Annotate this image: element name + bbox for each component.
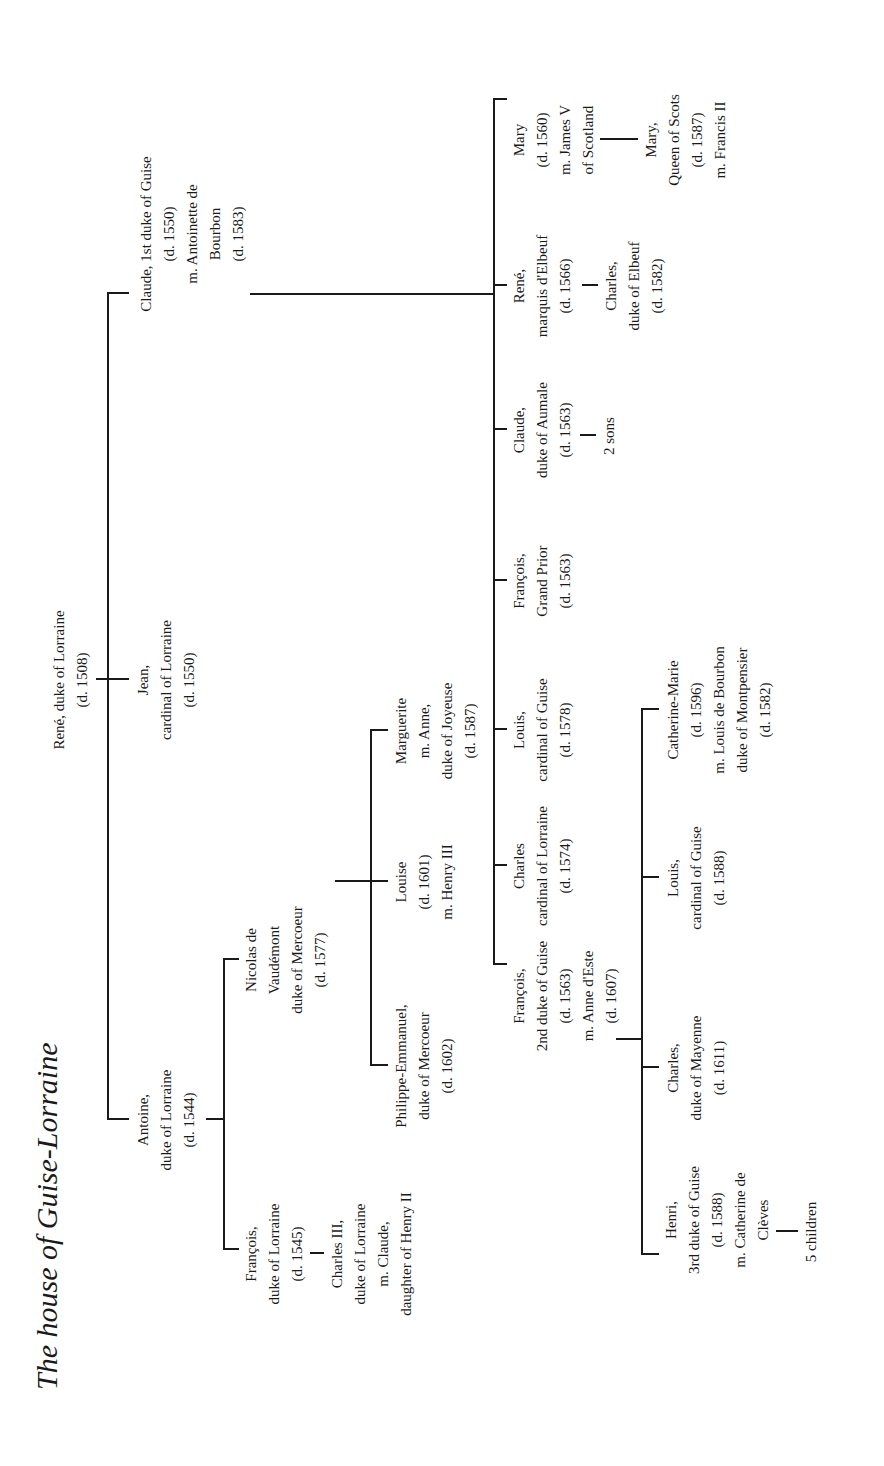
- node-text-line: Antoine,: [132, 1070, 155, 1171]
- node-text-line: m. Henry III: [436, 844, 459, 919]
- node-text-line: (d. 1588): [708, 826, 731, 929]
- connector-francois: [223, 1248, 239, 1250]
- node-text-line: m. Francis II: [709, 94, 732, 186]
- node-text-line: m. Anne d'Este: [577, 941, 600, 1051]
- connector-antoine: [107, 1118, 129, 1120]
- node-text-line: duke of Montpensier: [731, 646, 754, 774]
- node-text-line: Clèves: [752, 1166, 775, 1274]
- node-mary-queen-of-scots: Mary,Queen of Scots(d. 1587)m. Francis I…: [640, 94, 732, 186]
- connector-louise: [370, 880, 388, 882]
- node-text-line: Nicolas de: [240, 906, 263, 1013]
- connector-louis-card: [493, 728, 507, 730]
- node-jean: Jean,cardinal of Lorraine(d. 1550): [132, 620, 201, 740]
- node-text-line: (d. 1560): [531, 105, 554, 175]
- node-text-line: Charles: [508, 806, 531, 926]
- node-text-line: duke of Mercoeur: [286, 906, 309, 1013]
- connector-philippe: [370, 1064, 388, 1066]
- connector-claude: [107, 292, 129, 294]
- node-text-line: m. James V: [554, 105, 577, 175]
- node-text-line: Charles,: [600, 241, 623, 330]
- node-antoine: Antoine,duke of Lorraine(d. 1544): [132, 1070, 201, 1171]
- connector-jean: [107, 678, 129, 680]
- node-text-line: Charles,: [662, 1016, 685, 1121]
- node-text-line: cardinal of Lorraine: [531, 806, 554, 926]
- node-francois-duke-of-lorraine: François,duke of Lorraine(d. 1545): [240, 1204, 309, 1305]
- connector-claude-aumale: [493, 428, 507, 430]
- node-text-line: cardinal of Guise: [685, 826, 708, 929]
- node-text-line: François,: [508, 941, 531, 1051]
- node-charles-cardinal-of-lorraine: Charlescardinal of Lorraine(d. 1574): [508, 806, 577, 926]
- node-text-line: (d. 1607): [600, 941, 623, 1051]
- connector-henri: [641, 1253, 659, 1255]
- node-text-line: Louis,: [662, 826, 685, 929]
- node-text-line: duke of Elbeuf: [623, 241, 646, 330]
- node-text-line: (d. 1596): [685, 646, 708, 774]
- node-mary-of-guise: Mary(d. 1560)m. James Vof Scotland: [508, 105, 600, 175]
- node-text-line: of Scotland: [577, 105, 600, 175]
- node-text-line: (d. 1577): [309, 906, 332, 1013]
- node-text-line: Queen of Scots: [663, 94, 686, 186]
- node-henri-5-children: 5 children: [800, 1202, 823, 1262]
- connector-antoine-children-bar: [223, 960, 225, 1250]
- connector-francois2: [493, 963, 507, 965]
- node-text-line: (d. 1563): [554, 545, 577, 616]
- node-text-line: cardinal of Guise: [531, 678, 554, 781]
- node-text-line: Grand Prior: [531, 545, 554, 616]
- connector-mary: [493, 98, 507, 100]
- node-louis-cardinal-of-guise: Louis,cardinal of Guise(d. 1578): [508, 678, 577, 781]
- family-tree-diagram: The house of Guise-Lorraine René, duke o…: [0, 0, 884, 1466]
- node-text-line: (d. 1601): [413, 844, 436, 919]
- node-text-line: (d. 1574): [554, 806, 577, 926]
- node-text-line: marquis d'Elbeuf: [531, 235, 554, 337]
- node-text-line: (d. 1588): [706, 1166, 729, 1274]
- node-text-line: (d. 1563): [554, 941, 577, 1051]
- node-text-line: Mary: [508, 105, 531, 175]
- node-text-line: duke of Aumale: [531, 382, 554, 478]
- node-philippe-emmanuel: Philippe-Emmanuel,duke of Mercoeur(d. 16…: [390, 1004, 459, 1128]
- node-text-line: duke of Mercoeur: [413, 1004, 436, 1128]
- node-text-line: m. Louis de Bourbon: [708, 646, 731, 774]
- connector-marguerite: [370, 729, 388, 731]
- node-claude-duke-of-aumale: Claude,duke of Aumale(d. 1563): [508, 382, 577, 478]
- node-text-line: Bourbon: [204, 156, 227, 311]
- connector-claude-children-bar: [493, 100, 495, 965]
- node-text-line: Louis,: [508, 678, 531, 781]
- node-text-line: (d. 1550): [158, 156, 181, 311]
- node-text-line: duke of Lorraine: [349, 1192, 372, 1316]
- connector-charles-mayenne: [641, 1066, 659, 1068]
- node-text-line: René, duke of Lorraine: [48, 610, 71, 749]
- node-charles-duke-of-elbeuf: Charles,duke of Elbeuf(d. 1582): [600, 241, 669, 330]
- node-text-line: m. Claude,: [372, 1192, 395, 1316]
- node-text-line: (d. 1587): [459, 683, 482, 780]
- node-text-line: duke of Mayenne: [685, 1016, 708, 1121]
- node-text-line: duke of Joyeuse: [436, 683, 459, 780]
- node-text-line: Charles III,: [326, 1192, 349, 1316]
- node-text-line: m. Antoinette de: [181, 156, 204, 311]
- connector-claude-stem: [250, 293, 494, 295]
- node-louis-cardinal-of-guise-2: Louis,cardinal of Guise(d. 1588): [662, 826, 731, 929]
- connector-rene-elbeuf: [493, 284, 507, 286]
- connector-francois-prior: [493, 579, 507, 581]
- node-text-line: 3rd duke of Guise: [683, 1166, 706, 1274]
- node-text-line: daughter of Henry II: [395, 1192, 418, 1316]
- node-rene-marquis-d-elbeuf: René,marquis d'Elbeuf(d. 1566): [508, 235, 577, 337]
- node-text-line: (d. 1587): [686, 94, 709, 186]
- node-text-line: duke of Lorraine: [155, 1070, 178, 1171]
- connector-francois2-children-bar: [641, 710, 643, 1255]
- node-text-line: (d. 1550): [178, 620, 201, 740]
- connector-gen1-bar: [107, 294, 109, 1120]
- connector-aumale-sons: [580, 434, 596, 436]
- node-marguerite: Margueritem. Anne,duke of Joyeuse(d. 158…: [390, 683, 482, 780]
- node-text-line: Catherine-Marie: [662, 646, 685, 774]
- node-text-line: (d. 1508): [71, 610, 94, 749]
- node-text-line: (d. 1583): [227, 156, 250, 311]
- node-henri-3rd-duke-of-guise: Henri,3rd duke of Guise(d. 1588)m. Cathe…: [660, 1166, 775, 1274]
- node-text-line: Mary,: [640, 94, 663, 186]
- node-text-line: (d. 1566): [554, 235, 577, 337]
- node-charles-duke-of-mayenne: Charles,duke of Mayenne(d. 1611): [662, 1016, 731, 1121]
- node-text-line: (d. 1611): [708, 1016, 731, 1121]
- node-text-line: 2 sons: [598, 417, 621, 455]
- node-nicolas-de-vaudemont: Nicolas deVaudémontduke of Mercoeur(d. 1…: [240, 906, 332, 1013]
- connector-francois-charles3: [310, 1252, 324, 1254]
- node-text-line: (d. 1582): [646, 241, 669, 330]
